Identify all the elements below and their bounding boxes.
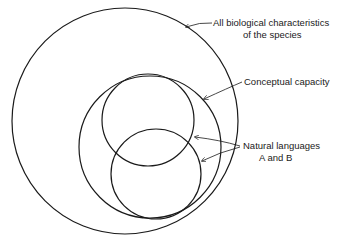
circle-language-b [111,129,201,219]
label-biological-line2: of the species [243,29,302,40]
arrow-biological [186,23,212,27]
label-languages-line2: A and B [259,152,292,163]
arrow-language-a [195,137,240,146]
circle-conceptual-capacity [79,76,221,218]
label-biological-line1: All biological characteristics [213,17,329,28]
label-conceptual-capacity: Conceptual capacity [244,76,330,87]
arrow-conceptual [204,82,242,99]
circle-language-a [102,74,194,166]
label-languages-line1: Natural languages [243,140,320,151]
circle-biological-characteristics [12,8,238,234]
